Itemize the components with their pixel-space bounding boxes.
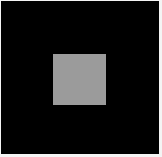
image-frame xyxy=(0,0,162,157)
black-background xyxy=(1,1,159,154)
gray-square xyxy=(53,54,106,105)
